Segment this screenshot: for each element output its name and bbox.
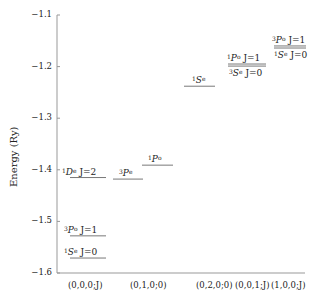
y-tick-label: −1.2 <box>22 61 52 71</box>
x-category-label: (0,2,0;0) <box>196 280 233 290</box>
x-category-label: (0,1,0;0) <box>130 280 167 290</box>
y-tick-label: −1.3 <box>22 112 52 122</box>
level-label: 1Se J=0 <box>274 50 307 60</box>
level-label: 3Pe <box>119 168 132 178</box>
y-axis-label: Energy (Ry) <box>8 127 19 187</box>
x-category-label: (0,0,0;J) <box>68 280 103 290</box>
energy-levels <box>70 46 306 258</box>
y-tick-label: −1.4 <box>22 164 52 174</box>
y-tick-label: −1.1 <box>22 9 52 19</box>
x-category-label: (1,0,0;J) <box>271 280 306 290</box>
level-label: 1Se <box>192 75 206 85</box>
level-label: 3Po J=1 <box>272 35 305 45</box>
y-tick-label: −1.5 <box>22 215 52 225</box>
level-label: 1Se J=0 <box>64 247 97 257</box>
diagram-canvas <box>0 0 315 297</box>
level-label: 3Po J=1 <box>64 225 97 235</box>
level-label: 1Po <box>148 154 162 164</box>
level-label: 1De J=2 <box>62 167 96 177</box>
y-tick-label: −1.6 <box>22 267 52 277</box>
level-label: 1Po J=1 <box>227 53 260 63</box>
x-category-label: (0,0,1;J) <box>235 280 270 290</box>
level-label: 3Se J=0 <box>229 68 262 78</box>
